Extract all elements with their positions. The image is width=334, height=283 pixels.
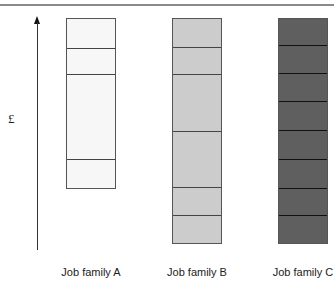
band-divider <box>279 159 327 160</box>
band-divider <box>67 159 115 160</box>
band-divider <box>173 47 221 48</box>
band-divider <box>279 73 327 74</box>
band-divider <box>173 131 221 132</box>
band-divider <box>173 215 221 216</box>
band-divider <box>67 74 115 75</box>
y-axis <box>37 22 38 250</box>
band-divider <box>173 187 221 188</box>
x-label-b: Job family B <box>152 266 242 278</box>
bar-a <box>66 18 116 189</box>
y-axis-label: £ <box>8 111 15 127</box>
band-divider <box>279 45 327 46</box>
x-label-a: Job family A <box>46 266 136 278</box>
band-divider <box>279 101 327 102</box>
band-divider <box>173 74 221 75</box>
band-divider <box>67 48 115 49</box>
bar-b <box>172 18 222 244</box>
band-divider <box>279 130 327 131</box>
band-divider <box>279 188 327 189</box>
bar-c <box>278 18 328 244</box>
band-divider <box>279 215 327 216</box>
x-label-c: Job family C <box>258 266 334 278</box>
top-rule <box>0 4 334 6</box>
